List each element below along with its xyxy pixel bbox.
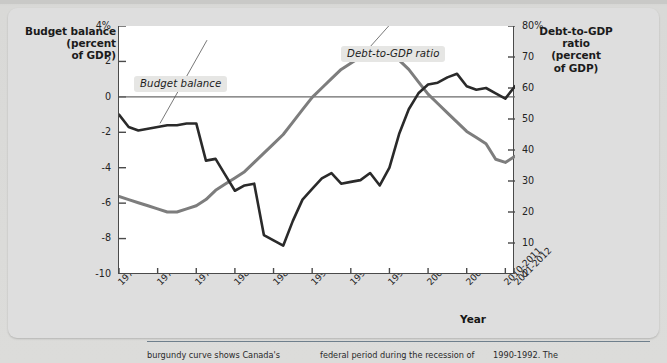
figure-card: Budget balance (percent of GDP) Debt-to-… <box>8 8 659 338</box>
callout-debt-to-gdp-ratio: Debt-to-GDP ratio <box>341 46 445 62</box>
callout-budget-balance: Budget balance <box>134 76 227 92</box>
plot-area <box>118 26 514 274</box>
caption-divider <box>147 341 650 342</box>
figure-caption: burgundy curve shows Canada's federal pe… <box>147 350 652 363</box>
x-axis-label: Year <box>460 313 486 325</box>
plot-svg <box>119 26 515 274</box>
page-top-edge <box>0 0 667 4</box>
